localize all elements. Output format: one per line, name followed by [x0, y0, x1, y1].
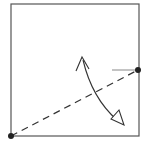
- edge-point: [135, 67, 141, 73]
- corner-point: [8, 133, 14, 139]
- hollow-triangle-arrowhead-icon: [111, 110, 124, 125]
- diagram-canvas: [0, 0, 147, 141]
- open-arrowhead-icon: [76, 57, 89, 71]
- dashed-diagonal-line: [11, 70, 138, 136]
